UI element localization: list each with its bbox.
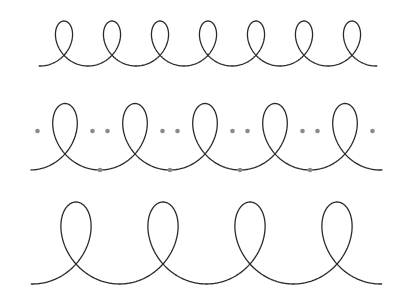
loop-right-marker [230,129,235,134]
loop-left-marker [105,129,110,134]
loop-left-marker [35,129,40,134]
trochoid-row-2 [31,104,383,171]
trochoid-row-1 [39,21,378,66]
loop-right-marker [370,129,375,134]
loop-left-marker [315,129,320,134]
loop-left-marker [245,129,250,134]
baseline-marker [238,168,243,173]
loop-right-marker [90,129,95,134]
trochoid-row-3 [31,202,382,284]
loop-left-marker [175,129,180,134]
loop-right-marker [300,129,305,134]
baseline-marker [308,168,313,173]
baseline-marker [98,168,103,173]
baseline-marker [168,168,173,173]
loop-right-marker [160,129,165,134]
looped-curves-diagram [0,0,400,294]
